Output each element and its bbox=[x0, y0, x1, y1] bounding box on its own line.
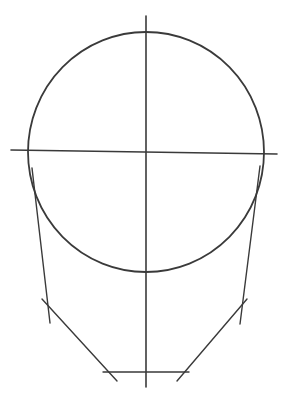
left-side-line bbox=[32, 168, 50, 323]
sketch-canvas bbox=[0, 0, 291, 403]
right-side-line bbox=[240, 166, 260, 324]
horizontal-brow-line bbox=[11, 150, 277, 154]
right-jaw-line bbox=[177, 299, 247, 381]
face-construction-diagram bbox=[0, 0, 291, 403]
left-jaw-line bbox=[42, 299, 117, 381]
